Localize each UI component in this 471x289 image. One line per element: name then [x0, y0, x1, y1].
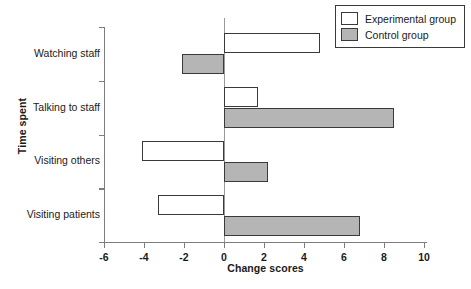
- gray-swatch-icon: [341, 28, 358, 41]
- bar-chart: Time spent Watching staffTalking to staf…: [0, 0, 471, 289]
- bar: [224, 33, 320, 53]
- y-axis-tick-labels: Watching staffTalking to staffVisiting o…: [0, 0, 100, 289]
- y-axis-tick: [99, 27, 105, 28]
- x-axis-tick: [184, 242, 185, 248]
- bar: [182, 54, 224, 74]
- y-axis-tick: [99, 188, 105, 189]
- x-axis-tick: [304, 242, 305, 248]
- x-axis-tick: [144, 242, 145, 248]
- bar: [224, 108, 394, 128]
- y-axis-tick-label: Talking to staff: [0, 102, 100, 113]
- bar: [224, 216, 360, 236]
- legend-item-control: Control group: [341, 27, 459, 42]
- plot-area: -6-4-20246810: [104, 27, 471, 242]
- chart-legend: Experimental group Control group: [335, 5, 465, 48]
- x-axis-line: [104, 242, 427, 243]
- bar: [142, 141, 224, 161]
- y-axis-tick-label: Visiting patients: [0, 209, 100, 220]
- bar: [224, 87, 258, 107]
- legend-label: Control group: [365, 29, 429, 41]
- x-axis-tick: [264, 242, 265, 248]
- bar: [158, 195, 224, 215]
- y-axis-tick: [99, 135, 105, 136]
- y-axis-tick: [99, 81, 105, 82]
- x-axis-tick: [384, 242, 385, 248]
- x-axis-tick: [344, 242, 345, 248]
- y-axis-tick-label: Visiting others: [0, 155, 100, 166]
- x-axis-tick: [424, 242, 425, 248]
- bar: [224, 162, 268, 182]
- y-axis-tick-label: Watching staff: [0, 48, 100, 59]
- white-swatch-icon: [341, 12, 358, 25]
- x-axis-tick: [104, 242, 105, 248]
- x-axis-title: Change scores: [104, 262, 427, 274]
- legend-item-experimental: Experimental group: [341, 11, 459, 26]
- legend-label: Experimental group: [365, 13, 456, 25]
- x-axis-tick: [224, 242, 225, 248]
